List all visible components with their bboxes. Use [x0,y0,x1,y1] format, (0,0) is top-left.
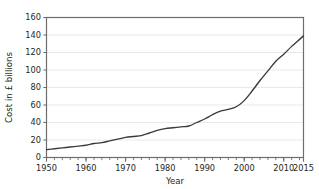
y-tick-label: 80 [31,82,41,92]
x-tick-label: 2015 [293,163,314,173]
x-tick-label: 1960 [76,163,97,173]
x-tick-label: 1950 [36,163,57,173]
y-tick-label: 160 [25,12,41,22]
y-tick-label: 140 [25,30,41,40]
y-tick-label: 120 [25,47,41,57]
y-axis-title: Cost in £ billions [4,52,14,123]
y-tick-label: 100 [25,65,41,75]
line-chart: 0204060801001201401601950196019701980199… [0,0,319,189]
x-tick-label: 1970 [115,163,136,173]
y-axis: 020406080100120140160 [25,12,46,162]
x-tick-label: 2000 [234,163,255,173]
x-axis-title: Year [165,176,185,186]
x-tick-label: 1990 [194,163,215,173]
y-tick-label: 0 [36,152,41,162]
y-tick-label: 60 [31,100,41,110]
x-tick-label: 2010 [273,163,294,173]
y-tick-label: 40 [31,117,41,127]
x-tick-label: 1980 [155,163,176,173]
chart-canvas: 0204060801001201401601950196019701980199… [0,0,319,189]
y-tick-label: 20 [31,135,41,145]
gridlines [47,35,304,140]
